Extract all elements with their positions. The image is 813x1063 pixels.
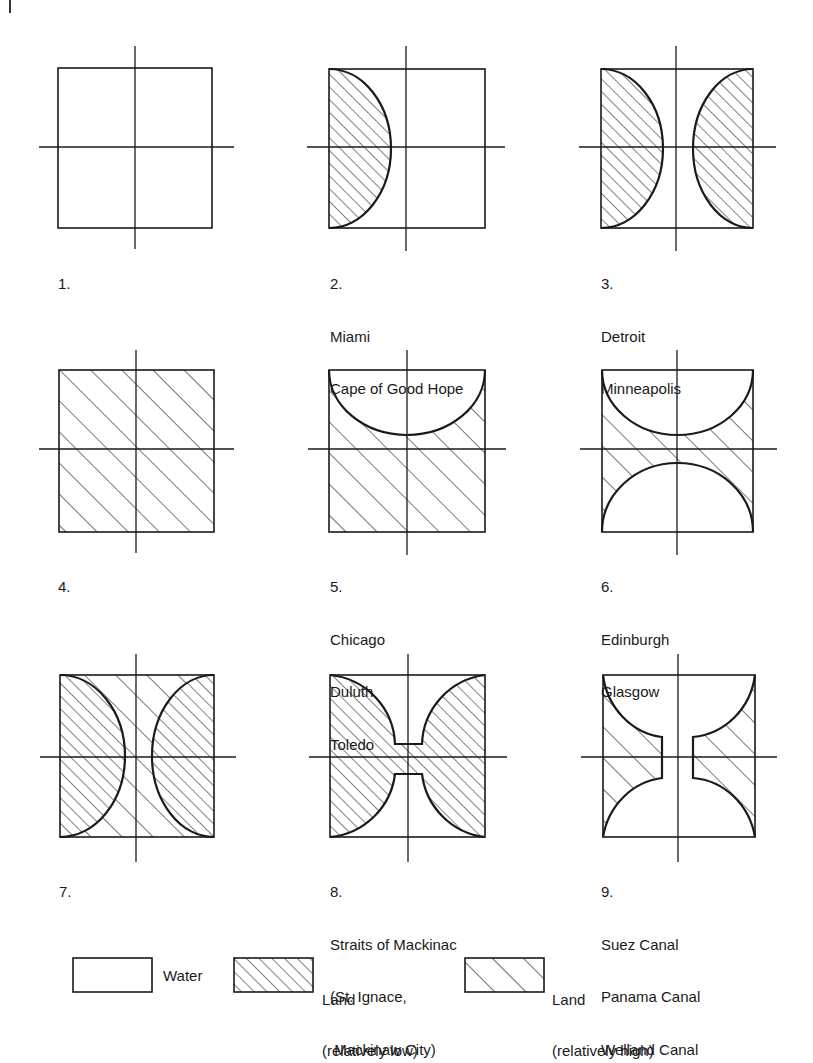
panel-5-place: Toledo (330, 736, 385, 754)
panel-1-diagram (39, 46, 234, 249)
panel-4-diagram (39, 350, 234, 553)
panel-2-place: Miami (330, 328, 463, 346)
legend-land-high-label: Land (relatively high) (552, 957, 654, 1063)
panel-8-place: Straits of Mackinac (330, 936, 457, 954)
panel-6-number: 6. (601, 578, 669, 596)
panel-6-place: Edinburgh (601, 631, 669, 649)
panel-3-place: Minneapolis (601, 380, 681, 398)
panel-5-caption: 5. Chicago Duluth Toledo (330, 543, 385, 771)
panel-3-diagram (579, 46, 776, 251)
panel-7-caption: 7. (59, 848, 72, 918)
panel-3-caption: 3. Detroit Minneapolis (601, 240, 681, 415)
panel-4-caption: 4. (58, 543, 71, 613)
panel-5-number: 5. (330, 578, 385, 596)
legend-land-high-line2: (relatively high) (552, 1042, 654, 1059)
panel-9-number: 9. (601, 883, 700, 901)
panel-8-number: 8. (330, 883, 457, 901)
panel-2-caption: 2. Miami Cape of Good Hope (330, 240, 463, 415)
legend-land-low-line1: Land (322, 991, 418, 1008)
panel-5-place: Duluth (330, 683, 385, 701)
legend-land-high-line1: Land (552, 991, 654, 1008)
panel-1-caption: 1. (58, 240, 71, 310)
panel-6-place: Glasgow (601, 683, 669, 701)
panel-2-place: Cape of Good Hope (330, 380, 463, 398)
panel-7-number: 7. (59, 883, 72, 901)
panel-1-number: 1. (58, 275, 71, 293)
legend-land-low-line2: (relatively low) (322, 1042, 418, 1059)
panel-3-place: Detroit (601, 328, 681, 346)
legend-water-swatch (73, 958, 152, 992)
panel-3-number: 3. (601, 275, 681, 293)
panel-4-number: 4. (58, 578, 71, 596)
legend-water-label: Water (163, 967, 202, 984)
panel-6-caption: 6. Edinburgh Glasgow (601, 543, 669, 718)
legend-swatches (73, 958, 544, 992)
panel-7-diagram (40, 654, 236, 862)
legend-land-low-label: Land (relatively low) (322, 957, 418, 1063)
panel-2-diagram (307, 46, 505, 251)
panel-5-place: Chicago (330, 631, 385, 649)
panel-9-place: Suez Canal (601, 936, 700, 954)
panel-2-number: 2. (330, 275, 463, 293)
